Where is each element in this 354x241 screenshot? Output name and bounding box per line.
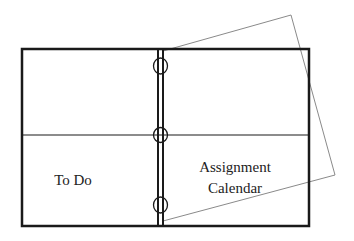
binder-ring-bottom xyxy=(154,197,168,213)
binder-ring-top xyxy=(154,58,168,74)
binder-diagram: To Do Assignment Calendar xyxy=(0,0,354,241)
right-panel-label-line2: Calendar xyxy=(208,180,262,196)
left-panel-label: To Do xyxy=(54,172,92,188)
right-panel-label-line1: Assignment xyxy=(199,159,272,175)
